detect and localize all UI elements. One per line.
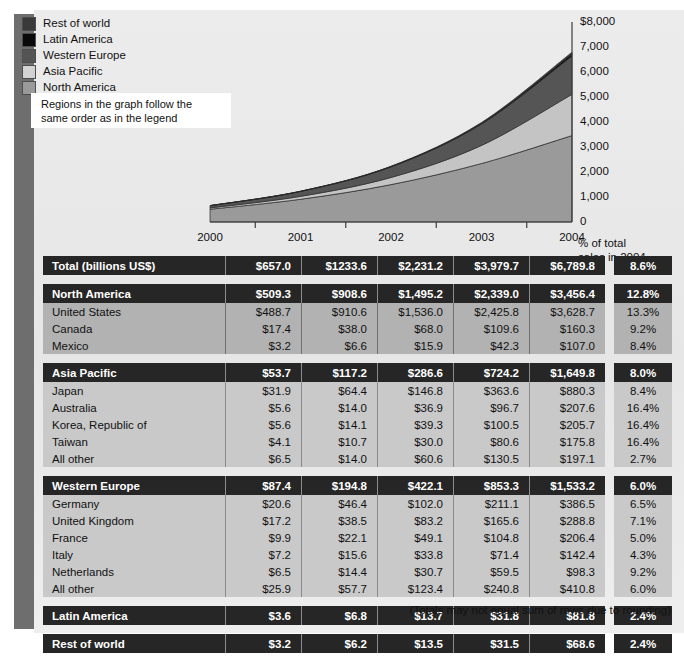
table-row-main: All other$6.5$14.0$60.6$130.5$197.1 [43,450,605,467]
table-cell-value: $83.2 [377,512,453,529]
table-cell-value: $20.6 [225,495,301,512]
table-row: Mexico$3.2$6.6$15.9$42.3$107.08.4% [43,337,673,354]
table-cell-value: $1,649.8 [529,363,605,382]
table-row: United Kingdom$17.2$38.5$83.2$165.6$288.… [43,512,673,529]
table-cell-value: $1,536.0 [377,303,453,320]
table-cell-value: $109.6 [453,320,529,337]
table-cell-value: $14.0 [301,399,377,416]
table-block: Rest of world$3.2$6.2$13.5$31.5$68.62.4% [43,634,673,653]
table-cell-value: $17.4 [225,320,301,337]
y-axis-tick-label: 1,000 [580,190,609,202]
y-axis-tick-label: 2,000 [580,165,609,177]
table-row-label: North America [43,284,225,303]
table-cell-value: $853.3 [453,476,529,495]
table-row: North America$509.3$908.6$1,495.2$2,339.… [43,284,673,303]
table-row-main: Asia Pacific$53.7$117.2$286.6$724.2$1,64… [43,363,605,382]
table-cell-value: $205.7 [529,416,605,433]
table-row: Netherlands$6.5$14.4$30.7$59.5$98.39.2% [43,563,673,580]
table-cell-percent: 8.6% [614,256,672,275]
table-row-label: Australia [43,399,225,416]
table-cell-value: $197.1 [529,450,605,467]
y-axis-tick-label: 0 [580,215,586,227]
table-cell-value: $59.5 [453,563,529,580]
x-axis-tick-label: 2003 [452,231,512,243]
table-row: Korea, Republic of$5.6$14.1$39.3$100.5$2… [43,416,673,433]
table-row-main: Taiwan$4.1$10.7$30.0$80.6$175.8 [43,433,605,450]
table-cell-value: $53.7 [225,363,301,382]
table-cell-value: $31.9 [225,382,301,399]
table-row: Germany$20.6$46.4$102.0$211.1$386.56.5% [43,495,673,512]
table-cell-value: $488.7 [225,303,301,320]
table-row-main: Germany$20.6$46.4$102.0$211.1$386.5 [43,495,605,512]
y-axis-tick-label: 7,000 [580,40,609,52]
table-row-main: Italy$7.2$15.6$33.8$71.4$142.4 [43,546,605,563]
table-cell-value: $123.4 [377,580,453,597]
table-cell-value: $100.5 [453,416,529,433]
table-row-label: Germany [43,495,225,512]
table-row: Rest of world$3.2$6.2$13.5$31.5$68.62.4% [43,634,673,653]
table-row-label: Rest of world [43,634,225,653]
table-row-main: All other$25.9$57.7$123.4$240.8$410.8 [43,580,605,597]
table-cell-value: $71.4 [453,546,529,563]
table-cell-percent: 2.4% [614,634,672,653]
y-axis-tick-label: $8,000 [580,15,615,27]
table-footnote: (Totals may not equal sum of rows due to… [43,604,673,616]
table-cell-value: $64.4 [301,382,377,399]
table-row: France$9.9$22.1$49.1$104.8$206.45.0% [43,529,673,546]
table-row-label: All other [43,580,225,597]
table-cell-value: $175.8 [529,433,605,450]
table-cell-value: $160.3 [529,320,605,337]
table-cell-percent: 16.4% [614,399,672,416]
table-row-label: France [43,529,225,546]
table-cell-value: $6.5 [225,563,301,580]
table-cell-value: $6.6 [301,337,377,354]
table-row-label: Netherlands [43,563,225,580]
table-cell-value: $17.2 [225,512,301,529]
table-cell-value: $42.3 [453,337,529,354]
table-cell-value: $2,425.8 [453,303,529,320]
table-row-main: United Kingdom$17.2$38.5$83.2$165.6$288.… [43,512,605,529]
table-row-main: Australia$5.6$14.0$36.9$96.7$207.6 [43,399,605,416]
table-cell-value: $10.7 [301,433,377,450]
table-cell-percent: 8.4% [614,337,672,354]
table-cell-percent: 4.3% [614,546,672,563]
table-cell-percent: 8.0% [614,363,672,382]
table-cell-value: $46.4 [301,495,377,512]
table-cell-value: $14.4 [301,563,377,580]
x-axis-tick-label: 2004 [542,231,602,243]
table-cell-value: $15.9 [377,337,453,354]
table-cell-value: $910.6 [301,303,377,320]
table-cell-value: $2,339.0 [453,284,529,303]
table-cell-percent: 6.0% [614,580,672,597]
table-row-label: United States [43,303,225,320]
table-cell-value: $194.8 [301,476,377,495]
table-cell-value: $15.6 [301,546,377,563]
legend-swatch-icon [22,49,36,63]
table-row-main: Total (billions US$)$657.0$1233.6$2,231.… [43,256,605,275]
table-cell-value: $5.6 [225,416,301,433]
legend-swatch-icon [22,33,36,47]
table-row: United States$488.7$910.6$1,536.0$2,425.… [43,303,673,320]
table-cell-percent: 7.1% [614,512,672,529]
table-cell-value: $207.6 [529,399,605,416]
table-cell-value: $165.6 [453,512,529,529]
table-cell-value: $104.8 [453,529,529,546]
table-row-main: Rest of world$3.2$6.2$13.5$31.5$68.6 [43,634,605,653]
table-cell-percent: 2.7% [614,450,672,467]
legend-swatch-icon [22,17,36,31]
legend-swatch-icon [22,65,36,79]
table-cell-value: $14.0 [301,450,377,467]
table-cell-value: $98.3 [529,563,605,580]
table-row-main: Canada$17.4$38.0$68.0$109.6$160.3 [43,320,605,337]
table-cell-value: $1,495.2 [377,284,453,303]
table-cell-value: $6.2 [301,634,377,653]
table-cell-value: $13.5 [377,634,453,653]
table-cell-percent: 6.5% [614,495,672,512]
table-cell-value: $2,231.2 [377,256,453,275]
chart-plot-area [176,18,576,230]
table-cell-value: $6,789.8 [529,256,605,275]
table-cell-percent: 6.0% [614,476,672,495]
x-axis-tick-label: 2000 [180,231,240,243]
stacked-area-chart: % of total sales in 2004 $8,0007,0006,00… [176,18,676,263]
